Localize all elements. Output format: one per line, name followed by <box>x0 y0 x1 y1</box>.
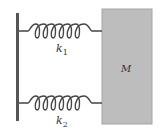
spring-bottom-subscript: 2 <box>63 120 68 129</box>
spring-bottom-label: k2 <box>56 114 68 129</box>
spring-top-symbol: k <box>56 42 63 55</box>
spring-top-label: k1 <box>56 42 68 57</box>
spring-bottom <box>19 96 102 110</box>
spring-mass-diagram: k1 k2 M <box>0 0 161 136</box>
wall <box>16 13 19 121</box>
spring-bottom-symbol: k <box>56 114 63 127</box>
spring-top-subscript: 1 <box>63 48 68 57</box>
diagram-graphics <box>0 0 161 136</box>
spring-top <box>19 24 102 38</box>
mass-label: M <box>121 63 131 74</box>
